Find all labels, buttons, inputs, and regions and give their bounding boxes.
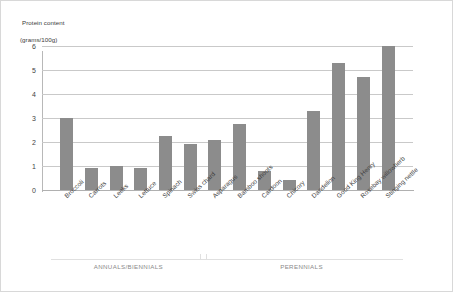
bar-chart: Protein content (grams/100g) 0123456 Bro… [0,0,453,292]
x-tick-label: Rosebay willowherb [359,155,406,199]
x-tick-label: Broccoli [63,178,85,199]
x-tick-label: Leeks [112,182,129,199]
x-tick-label: Carrots [87,179,107,199]
x-tick-label: Dandelion [310,174,336,199]
group-rule [51,259,205,260]
x-tick-label: Spinach [161,178,183,199]
x-tick-label: Chicory [285,179,306,199]
x-tick-label: Cardoon [260,177,283,199]
group-rule [200,259,404,260]
x-tick-label: Asparagus [211,173,238,199]
x-tick-label: Lettuce [137,179,157,199]
group-label: ANNUALS/BIENNIALS [51,263,205,270]
group-label: PERENNIALS [200,263,404,270]
x-axis-category-labels: BroccoliCarrotsLeeksLettuceSpinachSwiss … [1,1,453,292]
group-separator-tick [200,254,201,260]
